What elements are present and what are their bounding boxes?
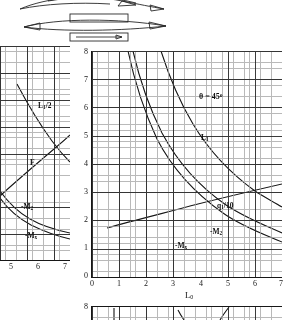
left-chart-x-axis (0, 260, 70, 261)
main-chart: 8 7 6 5 4 3 2 1 0 θ = 45o L1 q (78, 46, 284, 291)
bottom-chart: 8 (78, 302, 284, 320)
left-chart-xtick-5: 5 (5, 263, 17, 271)
bottom-chart-ytick-8: 8 (78, 303, 88, 311)
left-chart-curve-label-l1-2: L1/2 (38, 101, 51, 110)
leaf-spring-laminate-schematic (18, 0, 178, 44)
left-chart-xtick-6: 6 (32, 263, 44, 271)
main-chart-ytick-1: 1 (78, 244, 88, 252)
main-chart-ytick-0: 0 (78, 272, 88, 280)
main-chart-xtick-6: 6 (249, 280, 261, 288)
main-chart-ytick-4: 4 (78, 160, 88, 168)
main-chart-xtick-1: 1 (113, 280, 125, 288)
main-chart-xtick-3: 3 (167, 280, 179, 288)
main-chart-ytick-3: 3 (78, 188, 88, 196)
main-chart-ytick-7: 7 (78, 76, 88, 84)
main-chart-xtick-4: 4 (195, 280, 207, 288)
left-chart-plot-area: L1/2 F -M2 -Mx (0, 46, 70, 261)
main-chart-curve-label-m2: -M2 (210, 227, 222, 236)
bottom-chart-top-border (91, 306, 282, 307)
bottom-chart-major-grid (92, 306, 282, 320)
bottom-chart-plot-area (92, 306, 282, 320)
main-chart-ytick-8: 8 (78, 48, 88, 56)
main-chart-ytick-2: 2 (78, 216, 88, 224)
left-chart-curve-label-f: F (30, 158, 35, 167)
main-chart-theta-annotation: θ = 45o (199, 92, 223, 101)
left-chart-xtick-7: 7 (59, 263, 71, 271)
main-chart-ytick-5: 5 (78, 132, 88, 140)
figure-page: L1/2 F -M2 -Mx 5 6 7 8 7 6 5 4 3 2 1 0 (0, 0, 284, 320)
main-chart-plot-area: θ = 45o L1 q1/10 -M2 -Mx (92, 51, 282, 277)
left-chart: L1/2 F -M2 -Mx 5 6 7 (0, 46, 72, 278)
main-chart-xtick-7: 7 (275, 280, 284, 288)
main-chart-xtick-0: 0 (86, 280, 98, 288)
main-chart-curve-label-l1: L1 (201, 133, 209, 142)
main-chart-x-axis-label: L0 (185, 290, 193, 300)
main-chart-curve-label-mx: -Mx (175, 241, 187, 250)
main-chart-xtick-2: 2 (140, 280, 152, 288)
main-chart-ytick-6: 6 (78, 104, 88, 112)
left-chart-major-grid (0, 46, 70, 261)
main-chart-curve-label-q1: q1/10 (217, 201, 233, 210)
left-chart-curve-label-m2: -M2 (21, 202, 33, 211)
main-chart-xtick-5: 5 (222, 280, 234, 288)
left-chart-curve-label-mx: -Mx (25, 231, 37, 240)
